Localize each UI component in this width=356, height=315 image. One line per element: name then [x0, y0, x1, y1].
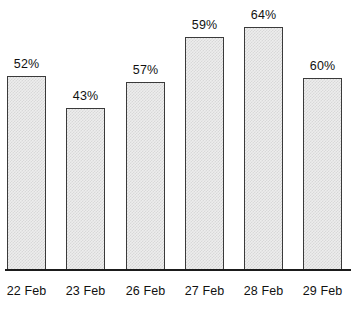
bar[interactable] — [126, 82, 165, 270]
x-axis-line — [5, 269, 351, 271]
plot-area: 52%43%57%59%64%60% — [0, 0, 356, 272]
bar[interactable] — [244, 27, 283, 270]
bar-value-label: 43% — [73, 89, 98, 103]
bar[interactable] — [303, 78, 342, 270]
bar-group: 64% — [244, 0, 283, 272]
bar[interactable] — [7, 76, 46, 270]
bar-group: 43% — [66, 0, 105, 272]
bar-value-label: 64% — [251, 8, 276, 22]
x-axis-label: 29 Feb — [303, 284, 343, 298]
x-axis-label: 27 Feb — [185, 284, 225, 298]
bar-value-label: 59% — [192, 18, 217, 32]
x-axis-label: 28 Feb — [244, 284, 284, 298]
bar-chart: 52%43%57%59%64%60% 22 Feb23 Feb26 Feb27 … — [0, 0, 356, 315]
bar-group: 52% — [7, 0, 46, 272]
bar[interactable] — [185, 37, 224, 270]
bar-value-label: 52% — [14, 57, 39, 71]
x-axis-label: 22 Feb — [7, 284, 47, 298]
bar-value-label: 60% — [310, 59, 335, 73]
bar-group: 59% — [185, 0, 224, 272]
bar-group: 57% — [126, 0, 165, 272]
bar-value-label: 57% — [133, 63, 158, 77]
bar-group: 60% — [303, 0, 342, 272]
bar[interactable] — [66, 108, 105, 270]
x-axis-tick-labels: 22 Feb23 Feb26 Feb27 Feb28 Feb29 Feb — [0, 284, 356, 306]
x-axis-label: 26 Feb — [126, 284, 166, 298]
x-axis-label: 23 Feb — [66, 284, 106, 298]
